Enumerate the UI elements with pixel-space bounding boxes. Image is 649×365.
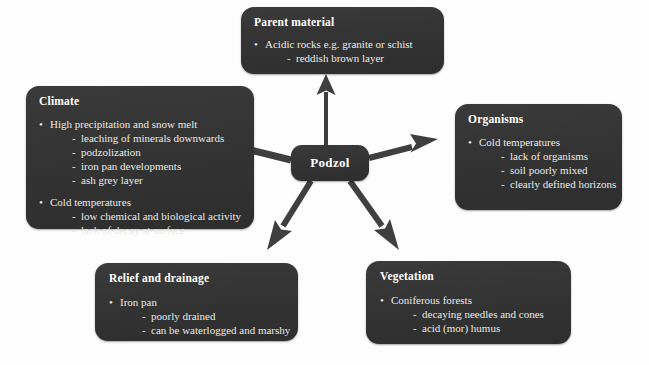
bullet-spacer (39, 187, 254, 195)
bullet-item: lack of organisms (468, 149, 622, 163)
bullet-item: clearly defined horizons (468, 177, 622, 191)
arrow-to-organisms-icon (369, 134, 438, 158)
arrow-to-relief-icon (267, 181, 311, 250)
node-organisms[interactable]: Organisms Cold temperatures lack of orga… (455, 104, 622, 210)
node-parent-material-title: Parent material (254, 16, 444, 29)
node-parent-material-bullets: Acidic rocks e.g. granite or schist redd… (254, 37, 444, 65)
diagram-canvas: Parent material Acidic rocks e.g. granit… (0, 0, 649, 365)
bullet-item: decaying needles and cones (380, 307, 571, 321)
bullet-item: Cold temperatures (39, 195, 254, 209)
bullet-item: low chemical and biological activity (39, 209, 254, 223)
arrow-to-parent-material-icon (317, 74, 336, 145)
arrow-to-vegetation-icon (350, 181, 399, 250)
node-vegetation[interactable]: Vegetation Coniferous forests decaying n… (366, 261, 571, 344)
node-organisms-title: Organisms (468, 113, 622, 126)
bullet-item: reddish brown layer (254, 51, 444, 65)
bullet-item: can be waterlogged and marshy (109, 323, 298, 337)
node-relief-and-drainage[interactable]: Relief and drainage Iron pan poorly drai… (95, 263, 298, 341)
node-climate[interactable]: Climate High precipitation and snow melt… (26, 86, 254, 229)
bullet-item: High precipitation and snow melt (39, 117, 254, 131)
bullet-item: lack of decay at surface (39, 223, 254, 237)
bullet-item: podzolization (39, 145, 254, 159)
central-node-podzol[interactable]: Podzol (291, 145, 369, 181)
bullet-item: soil poorly mixed (468, 163, 622, 177)
bullet-item: Acidic rocks e.g. granite or schist (254, 37, 444, 51)
node-vegetation-bullets: Coniferous forests decaying needles and … (380, 293, 571, 335)
node-climate-title: Climate (39, 95, 254, 108)
bullet-item: Coniferous forests (380, 293, 571, 307)
node-climate-bullets: High precipitation and snow melt leachin… (39, 117, 254, 238)
node-relief-and-drainage-bullets: Iron pan poorly drained can be waterlogg… (109, 295, 298, 337)
bullet-item: Iron pan (109, 295, 298, 309)
bullet-item: leaching of minerals downwards (39, 131, 254, 145)
bullet-item: acid (mor) humus (380, 321, 571, 335)
bullet-item: poorly drained (109, 309, 298, 323)
central-node-label: Podzol (310, 155, 349, 171)
node-parent-material[interactable]: Parent material Acidic rocks e.g. granit… (241, 7, 444, 74)
bullet-item: ash grey layer (39, 173, 254, 187)
node-vegetation-title: Vegetation (380, 270, 571, 283)
node-relief-and-drainage-title: Relief and drainage (109, 272, 298, 285)
bullet-item: Cold temperatures (468, 135, 622, 149)
node-organisms-bullets: Cold temperatures lack of organisms soil… (468, 135, 622, 191)
bullet-item: iron pan developments (39, 159, 254, 173)
